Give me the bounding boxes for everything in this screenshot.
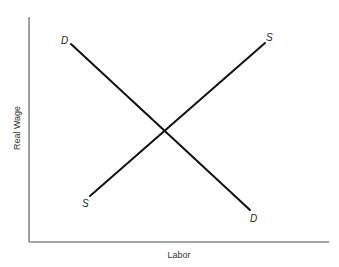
x-axis-label: Labor (167, 250, 190, 260)
supply-label-bottom: S (82, 198, 89, 209)
supply-curve (90, 43, 265, 196)
supply-label-top: S (266, 32, 273, 43)
labor-market-chart: D D S S Labor Real Wage (0, 0, 339, 267)
demand-label-top: D (61, 35, 68, 46)
demand-label-bottom: D (250, 213, 257, 224)
demand-curve (71, 44, 250, 210)
y-axis-label: Real Wage (12, 106, 22, 150)
